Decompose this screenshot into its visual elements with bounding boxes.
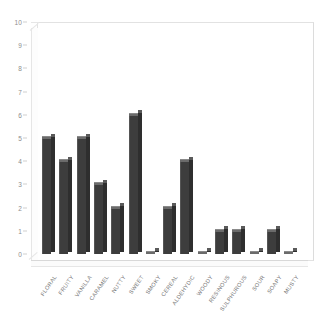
bar-top-side-face [155,248,159,251]
bar-top-side-face [103,180,107,183]
bar-front-face [215,231,224,254]
y-axis-tick-label: 10 [15,19,22,26]
bar-top-face [111,206,120,209]
bar-chart: 012345678910 FLORALFRUITYVANILLACARAMELN… [0,0,320,322]
bar-top-side-face [51,134,55,137]
x-axis-tick-label: NUTTY [110,274,127,294]
bar-top-face [284,251,293,254]
bar-top-face [129,113,138,116]
y-axis-tick-label: 3 [18,181,22,188]
bar-side-face [68,159,72,252]
bar-side-face [120,205,124,251]
bar-top-side-face [86,134,90,137]
bar-side-face [276,228,280,251]
bar-top-face [77,136,86,139]
y-axis-tick-label: 7 [18,88,22,95]
bar[interactable] [250,253,259,255]
bar-top-side-face [189,157,193,160]
bar-front-face [267,231,276,254]
bar-front-face [163,208,172,254]
x-axis-tick-label: SWEET [127,274,144,295]
bar-side-face [138,112,142,251]
y-axis-tick-mark [23,207,27,208]
bar-top-side-face [68,157,72,160]
bar[interactable] [284,253,293,255]
bar-top-side-face [224,226,228,229]
y-axis-tick-label: 1 [18,227,22,234]
bar-top-side-face [207,248,211,251]
bar-side-face [224,228,228,251]
bar[interactable] [198,253,207,255]
bar-top-side-face [138,110,142,113]
bar[interactable] [129,115,138,254]
bar-side-face [241,228,245,251]
bar[interactable] [215,231,224,254]
bar-front-face [59,161,68,254]
bar-top-face [250,251,259,254]
bar-top-face [42,136,51,139]
y-axis-tick-mark [23,161,27,162]
y-axis-tick-label: 4 [18,158,22,165]
bar-side-face [189,159,193,252]
x-axis-tick-label: SMOKY [144,274,162,295]
bar[interactable] [163,208,172,254]
bar[interactable] [146,253,155,255]
bar-top-face [94,182,103,185]
y-axis-tick-label: 8 [18,65,22,72]
x-axis: FLORALFRUITYVANILLACARAMELNUTTYSWEETSMOK… [31,274,320,322]
bar[interactable] [42,138,51,254]
bar-front-face [42,138,51,254]
x-axis-tick-label: FRUITY [57,274,75,296]
bar-front-face [94,184,103,254]
bar-side-face [86,136,90,252]
bar-top-face [232,229,241,232]
bar-top-side-face [276,226,280,229]
bar-top-side-face [241,226,245,229]
bar[interactable] [59,161,68,254]
bar[interactable] [180,161,189,254]
bar[interactable] [77,138,86,254]
bar-top-face [59,159,68,162]
bars-layer [31,22,314,267]
bar-top-face [215,229,224,232]
bar-top-side-face [172,203,176,206]
bar-side-face [51,136,55,252]
bar-side-face [103,182,107,252]
y-axis-tick-mark [23,22,27,23]
bar-front-face [180,161,189,254]
bar-front-face [232,231,241,254]
y-axis-tick-mark [23,114,27,115]
y-axis-tick-mark [23,184,27,185]
bar-front-face [77,138,86,254]
y-axis-tick-label: 5 [18,135,22,142]
bar-top-side-face [293,248,297,251]
bar-front-face [111,208,120,254]
y-axis: 012345678910 [0,0,30,322]
x-axis-tick-label: SOUR [251,274,266,292]
bar-top-face [267,229,276,232]
bar[interactable] [267,231,276,254]
bar[interactable] [111,208,120,254]
bar[interactable] [232,231,241,254]
y-axis-tick-label: 2 [18,204,22,211]
y-axis-tick-mark [23,45,27,46]
y-axis-tick-label: 6 [18,111,22,118]
y-axis-tick-mark [23,138,27,139]
bar[interactable] [94,184,103,254]
bar-top-side-face [120,203,124,206]
x-axis-tick-label: MUSTY [283,274,300,295]
bar-top-face [146,251,155,254]
bar-side-face [172,205,176,251]
y-axis-tick-mark [23,68,27,69]
bar-top-side-face [259,248,263,251]
y-axis-tick-mark [23,230,27,231]
y-axis-tick-mark [23,91,27,92]
y-axis-tick-mark [23,254,27,255]
x-axis-tick-label: SOAPY [266,274,283,295]
x-axis-tick-label: FLORAL [39,274,58,297]
bar-top-face [163,206,172,209]
bar-top-face [180,159,189,162]
bar-top-face [198,251,207,254]
bar-front-face [129,115,138,254]
y-axis-tick-label: 9 [18,42,22,49]
